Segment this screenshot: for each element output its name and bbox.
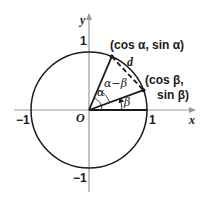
x-axis-label: x bbox=[188, 113, 195, 127]
beta-angle-label: β bbox=[123, 96, 130, 109]
y-axis-label: y bbox=[78, 13, 86, 27]
y-neg-tick-label: −1 bbox=[73, 171, 87, 185]
origin-label: O bbox=[76, 111, 85, 125]
x-pos-tick-label: 1 bbox=[149, 113, 156, 127]
alpha-point-dot bbox=[110, 55, 114, 59]
y-pos-tick-label: 1 bbox=[80, 34, 87, 48]
alpha-minus-beta-angle-label: α−β bbox=[104, 77, 127, 90]
unit-circle-diagram: y x O 1 1 −1 −1 (cos α, sin α) (cos β, s… bbox=[0, 0, 211, 200]
beta-point-label-line1: (cos β, bbox=[145, 73, 184, 87]
beta-arc bbox=[120, 99, 122, 110]
alpha-point-label: (cos α, sin α) bbox=[110, 38, 184, 52]
beta-point-dot bbox=[142, 88, 146, 92]
beta-point-label-line2: sin β) bbox=[157, 88, 189, 102]
chord-d-label: d bbox=[127, 55, 134, 69]
x-neg-tick-label: −1 bbox=[16, 113, 30, 127]
